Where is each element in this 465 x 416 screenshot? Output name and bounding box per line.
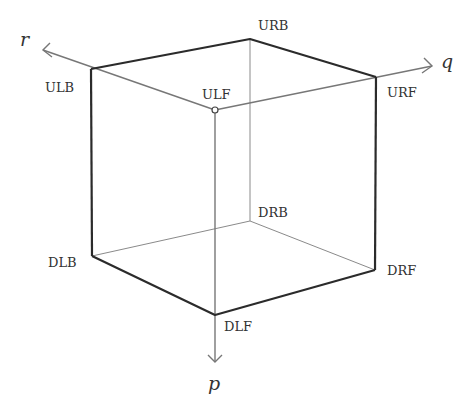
axis-label-p: p bbox=[208, 374, 220, 393]
axis-label-q: q bbox=[441, 52, 453, 71]
edge-drb-drf bbox=[250, 221, 375, 270]
edge-ulb-dlb bbox=[91, 69, 92, 256]
axis-q-arrowhead bbox=[422, 58, 432, 73]
vertex-label-drf: DRF bbox=[387, 264, 416, 277]
vertex-label-ulb: ULB bbox=[45, 81, 74, 94]
vertex-label-drb: DRB bbox=[258, 206, 288, 219]
edge-top-back bbox=[91, 39, 376, 77]
edge-urf-drf bbox=[375, 77, 376, 270]
origin-point-ulf bbox=[212, 107, 218, 113]
vertex-label-ulf: ULF bbox=[202, 88, 231, 101]
edge-dlb-drb bbox=[92, 221, 250, 256]
edge-bottom-front bbox=[92, 256, 375, 315]
cube-diagram bbox=[0, 0, 465, 416]
vertex-label-dlb: DLB bbox=[48, 256, 77, 269]
vertex-label-urf: URF bbox=[387, 86, 417, 99]
vertex-label-dlf: DLF bbox=[224, 320, 252, 333]
axis-label-r: r bbox=[20, 30, 29, 49]
vertex-label-urb: URB bbox=[258, 19, 288, 32]
